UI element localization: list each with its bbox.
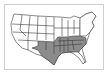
- northeast-states: [80, 12, 96, 36]
- us-map: [8, 10, 100, 68]
